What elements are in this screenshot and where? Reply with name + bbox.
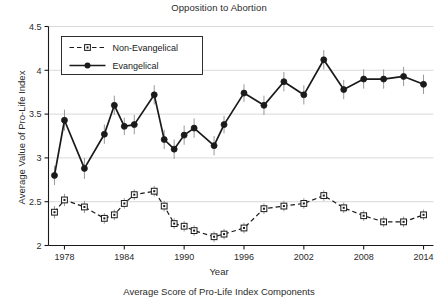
chart-figure: Opposition to Abortion Average Value of … xyxy=(0,0,438,308)
data-point xyxy=(421,81,427,87)
data-point xyxy=(111,102,117,108)
data-point-center xyxy=(63,199,65,201)
data-point-center xyxy=(403,221,405,223)
data-point-center xyxy=(283,205,285,207)
y-tick-label: 3 xyxy=(36,153,41,163)
plot-area: 22.533.544.51978198419901996200220082014… xyxy=(0,0,438,308)
data-point-center xyxy=(323,195,325,197)
series-markers xyxy=(52,188,427,239)
data-point-center xyxy=(223,233,225,235)
data-point-center xyxy=(363,215,365,217)
x-tick-label: 2002 xyxy=(294,252,314,262)
x-axis-ticks: 1978198419901996200220082014 xyxy=(54,246,433,262)
legend-label: Evangelical xyxy=(113,61,159,71)
legend-marker-circle xyxy=(85,63,91,69)
data-point xyxy=(161,137,167,143)
x-tick-label: 2008 xyxy=(354,252,374,262)
y-tick-label: 4 xyxy=(36,66,41,76)
data-point xyxy=(51,172,57,178)
error-bars xyxy=(54,186,423,242)
data-point xyxy=(261,102,267,108)
data-point-center xyxy=(123,202,125,204)
data-point-center xyxy=(303,202,305,204)
data-point-center xyxy=(423,214,425,216)
x-tick-label: 2014 xyxy=(414,252,434,262)
x-tick-label: 1984 xyxy=(114,252,134,262)
data-point xyxy=(181,132,187,138)
data-point xyxy=(151,92,157,98)
data-point xyxy=(101,131,107,137)
data-point xyxy=(221,122,227,128)
data-point-center xyxy=(83,206,85,208)
data-point-center xyxy=(173,223,175,225)
data-point xyxy=(321,57,327,63)
data-point xyxy=(381,76,387,82)
data-point xyxy=(191,125,197,131)
data-point-center xyxy=(153,190,155,192)
legend-marker-square-center xyxy=(87,47,89,49)
y-tick-label: 2.5 xyxy=(29,197,42,207)
x-tick-label: 1978 xyxy=(54,252,74,262)
data-point xyxy=(341,87,347,93)
series-markers xyxy=(51,57,426,179)
data-point xyxy=(241,90,247,96)
data-point xyxy=(121,123,127,129)
series-line xyxy=(54,191,423,237)
y-tick-label: 2 xyxy=(36,241,41,251)
data-point xyxy=(211,143,217,149)
data-point xyxy=(361,76,367,82)
data-point-center xyxy=(213,236,215,238)
data-point xyxy=(281,79,287,85)
data-point-center xyxy=(263,208,265,210)
data-point xyxy=(301,92,307,98)
data-point-center xyxy=(53,211,55,213)
data-point xyxy=(171,146,177,152)
y-axis-ticks: 22.533.544.5 xyxy=(29,22,49,251)
data-point-center xyxy=(163,205,165,207)
y-tick-label: 4.5 xyxy=(29,22,42,32)
x-tick-label: 1996 xyxy=(234,252,254,262)
y-tick-label: 3.5 xyxy=(29,109,42,119)
x-tick-label: 1990 xyxy=(174,252,194,262)
data-point xyxy=(131,122,137,128)
data-point-center xyxy=(243,227,245,229)
legend-label: Non-Evangelical xyxy=(113,43,179,53)
data-point-center xyxy=(133,194,135,196)
data-point-center xyxy=(343,207,345,209)
data-point-center xyxy=(113,214,115,216)
data-point-center xyxy=(103,217,105,219)
data-point xyxy=(81,165,87,171)
data-point-center xyxy=(383,221,385,223)
data-point xyxy=(401,73,407,79)
data-point xyxy=(61,117,67,123)
data-point-center xyxy=(183,225,185,227)
data-point-center xyxy=(193,230,195,232)
series-non-evangelical xyxy=(52,186,427,242)
legend: Non-EvangelicalEvangelical xyxy=(62,37,203,75)
